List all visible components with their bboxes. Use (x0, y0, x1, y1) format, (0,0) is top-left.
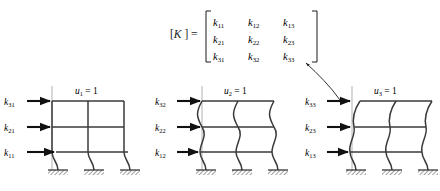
matrix-bracket-right (312, 11, 317, 62)
force-label: k21 (4, 123, 15, 134)
curved-arrow (306, 63, 340, 100)
force-k11: k11 (4, 148, 54, 159)
matrix-cell: k31 (213, 51, 224, 63)
displacement-label-u1: u1 = 1 (75, 86, 98, 97)
force-label: k11 (4, 148, 14, 159)
matrix-cell: k33 (283, 51, 295, 63)
matrix-cell: k23 (283, 34, 295, 46)
force-label: k22 (155, 123, 166, 134)
force-k31: k31 (4, 97, 50, 108)
displacement-label-u2: u2 = 1 (224, 86, 247, 97)
force-label: k31 (4, 97, 15, 108)
force-label: k33 (305, 97, 316, 108)
matrix-label: [K ] = (170, 28, 198, 40)
force-k33: k33 (305, 97, 350, 108)
support-fixed (268, 170, 288, 175)
force-label: k12 (155, 148, 166, 159)
matrix-row: k11 k12 k13 (213, 17, 295, 29)
frame-1-supports (48, 170, 140, 175)
frame-1-beams (52, 101, 128, 152)
figure-canvas: [K ] = k11 k12 k13 k21 k22 k23 k31 k32 k… (0, 0, 440, 191)
frame-2-supports (196, 170, 288, 175)
support-fixed (382, 170, 402, 175)
support-fixed (346, 170, 366, 175)
matrix-cell: k32 (248, 51, 260, 63)
frame-2: u2 = 1 (155, 86, 288, 175)
frame-1: u1 = 1 (4, 86, 140, 175)
matrix-cell: k11 (213, 17, 224, 29)
force-k23: k23 (305, 123, 350, 134)
frame-2-columns (198, 101, 279, 170)
force-k21: k21 (4, 123, 50, 134)
stiffness-matrix: [K ] = k11 k12 k13 k21 k22 k23 k31 k32 k… (170, 11, 317, 63)
frame-1-forces: k31 k21 k11 (4, 97, 54, 159)
frame-3-supports (346, 170, 438, 175)
matrix-cell: k13 (283, 17, 295, 29)
matrix-cell: k21 (213, 34, 224, 46)
frame-3-columns (350, 101, 432, 170)
stiffness-matrix-figure: [K ] = k11 k12 k13 k21 k22 k23 k31 k32 k… (0, 0, 440, 191)
support-fixed (232, 170, 252, 175)
force-k12: k12 (155, 148, 198, 159)
support-fixed (48, 170, 68, 175)
matrix-cell: k12 (248, 17, 260, 29)
displacement-label-u3: u3 = 1 (374, 86, 397, 97)
support-fixed (418, 170, 438, 175)
frame-3-beams (350, 101, 432, 152)
frame-2-forces: k32 k22 k12 (155, 97, 200, 159)
support-fixed (120, 170, 140, 175)
force-k22: k22 (155, 123, 200, 134)
force-k13: k13 (305, 148, 348, 159)
support-fixed (84, 170, 104, 175)
force-label: k32 (155, 97, 166, 108)
frame-3-forces: k33 k23 k13 (305, 97, 350, 159)
force-k32: k32 (155, 97, 200, 108)
frame-3: u3 = 1 (305, 86, 438, 175)
support-fixed (196, 170, 216, 175)
frame-1-columns (52, 101, 130, 170)
matrix-row: k21 k22 k23 (213, 34, 295, 46)
matrix-row: k31 k32 k33 (213, 51, 295, 63)
force-label: k23 (305, 123, 316, 134)
matrix-bracket-left (206, 11, 211, 62)
matrix-cell: k22 (248, 34, 260, 46)
force-label: k13 (305, 148, 316, 159)
